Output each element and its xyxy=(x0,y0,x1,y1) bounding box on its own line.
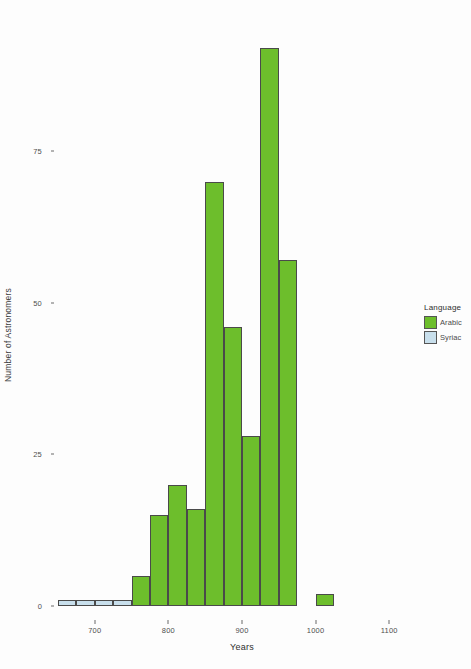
bar xyxy=(260,48,278,606)
y-tick-mark xyxy=(51,606,54,607)
chart-root: Number of Astronomers 0255075 Years 7008… xyxy=(0,0,471,669)
bar xyxy=(205,182,223,606)
y-tick-label: 50 xyxy=(33,298,42,307)
bar xyxy=(95,600,113,606)
y-axis-ticks: 0255075 xyxy=(0,30,50,606)
x-tick-label: 900 xyxy=(235,626,248,635)
legend-item-arabic[interactable]: Arabic xyxy=(424,315,471,330)
bar xyxy=(224,327,242,606)
legend: Language Arabic Syriac xyxy=(424,303,471,345)
bar xyxy=(187,509,205,606)
x-axis-title: Years xyxy=(58,642,426,652)
y-tick-label: 0 xyxy=(38,602,42,611)
legend-item-syriac[interactable]: Syriac xyxy=(424,330,471,345)
y-tick-label: 25 xyxy=(33,450,42,459)
bar xyxy=(279,260,297,606)
legend-title: Language xyxy=(424,303,471,312)
bar xyxy=(242,436,260,606)
y-tick-mark xyxy=(51,302,54,303)
bar xyxy=(150,515,168,606)
x-tick-label: 800 xyxy=(162,626,175,635)
x-tick-label: 700 xyxy=(88,626,101,635)
legend-label-arabic: Arabic xyxy=(440,318,462,327)
legend-label-syriac: Syriac xyxy=(440,333,461,342)
legend-swatch-arabic xyxy=(424,316,437,329)
bar xyxy=(58,600,76,606)
legend-swatch-syriac xyxy=(424,331,437,344)
x-tick-label: 1100 xyxy=(381,626,398,635)
x-tick-label: 1000 xyxy=(307,626,325,635)
bar xyxy=(76,600,94,606)
x-tick-mark xyxy=(315,620,316,624)
x-tick-mark xyxy=(94,620,95,624)
bars-container xyxy=(58,30,426,606)
bar xyxy=(132,576,150,606)
y-tick-label: 75 xyxy=(33,147,42,156)
bar xyxy=(113,600,131,606)
x-tick-mark xyxy=(168,620,169,624)
bar xyxy=(316,594,334,606)
x-tick-mark xyxy=(389,620,390,624)
bar xyxy=(168,485,186,606)
x-axis-ticks: Years 70080090010001100 xyxy=(58,606,426,646)
plot-area xyxy=(58,30,426,606)
x-tick-mark xyxy=(242,620,243,624)
y-tick-mark xyxy=(51,151,54,152)
y-tick-mark xyxy=(51,454,54,455)
